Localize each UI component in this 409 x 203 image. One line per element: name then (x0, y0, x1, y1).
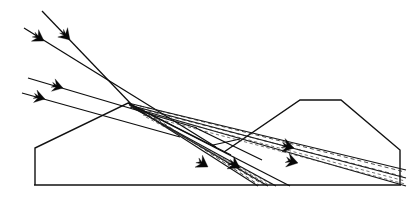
ray-diagram-figure (0, 0, 409, 203)
diagram-canvas (0, 0, 409, 203)
